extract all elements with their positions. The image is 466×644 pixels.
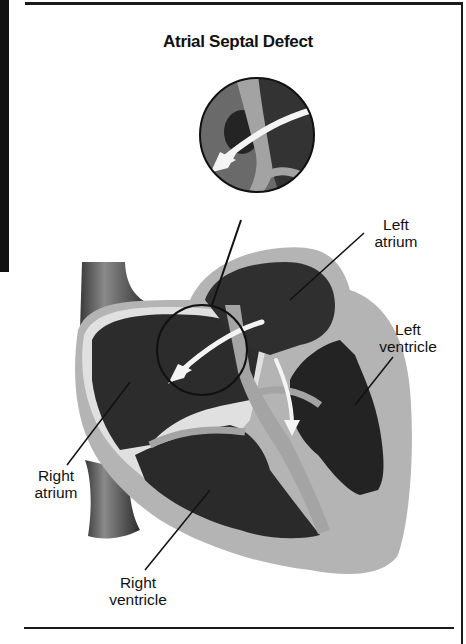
label-right-atrium: Right atrium [28,467,84,501]
label-line: Right [98,574,178,591]
label-line: Left [368,321,448,338]
label-line: atrium [364,233,428,250]
label-right-ventricle: Right ventricle [98,574,178,608]
label-line: Right [28,467,84,484]
label-left-ventricle: Left ventricle [368,321,448,355]
label-line: ventricle [98,591,178,608]
label-line: ventricle [368,338,448,355]
label-left-atrium: Left atrium [364,216,428,250]
label-line: atrium [28,484,84,501]
zoomed-defect-inset [195,75,320,200]
label-line: Left [364,216,428,233]
